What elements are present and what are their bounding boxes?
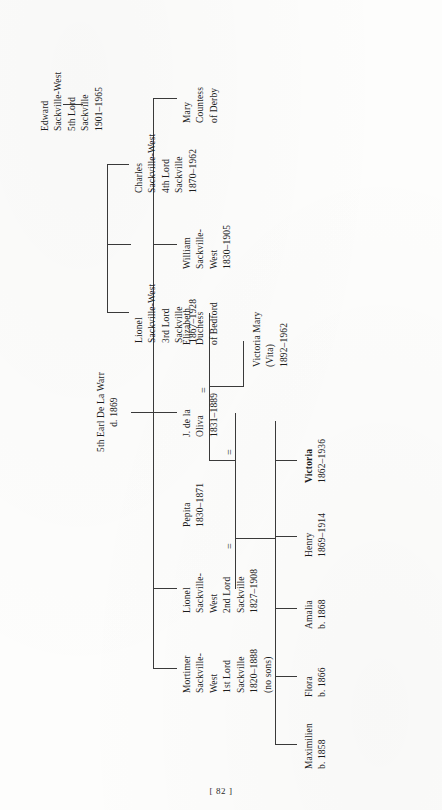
connector-drop-mortimer <box>153 668 177 669</box>
connector-drop-charles4 <box>107 164 129 165</box>
edward5-line-4: Sackville <box>79 72 92 131</box>
vita-line-2: (Vita) <box>264 312 277 367</box>
flora-line-1: Flora <box>303 667 316 697</box>
connector-drop-victoria <box>275 460 297 461</box>
node-edward-5th-lord: Edward Sackville-West 5th Lord Sackville… <box>39 72 106 131</box>
lionel2-line-5: Sackville <box>235 569 248 613</box>
node-amalia: Amalia b. 1868 <box>303 599 330 629</box>
node-j-de-la-oliva: J. de la Oliva 1831–1889 <box>181 393 221 437</box>
node-charles-4th-lord: Charles Sackville-West 4th Lord Sackvill… <box>133 134 200 193</box>
mary-line-2: Countess <box>194 87 207 123</box>
lionel2-line-6: 1827–1908 <box>248 569 261 613</box>
mortimer-line-7: (no sons) <box>262 649 275 693</box>
vita-line-1: Victoria Mary <box>251 312 264 367</box>
node-flora: Flora b. 1866 <box>303 667 330 697</box>
page-folio-number: [ 82 ] <box>0 786 442 796</box>
connector-drop-william <box>153 244 177 245</box>
maximilien-line-1: Maximilien <box>303 723 316 769</box>
marriage-symbol-lionel-pepita: = <box>224 543 235 549</box>
amalia-line-1: Amalia <box>303 599 316 629</box>
connector-drop-lionel3 <box>107 312 129 313</box>
mary-line-3: of Derby <box>208 87 221 123</box>
mortimer-line-5: Sackville <box>235 649 248 693</box>
charles4-line-4: Sackville <box>173 134 186 193</box>
node-lionel-2nd-lord: Lionel Sackville- West 2nd Lord Sackvill… <box>181 569 262 613</box>
amalia-line-2: b. 1868 <box>316 599 329 629</box>
connector-drop-flora <box>275 676 297 677</box>
connector-drop-mary <box>153 98 177 99</box>
flora-line-2: b. 1866 <box>316 667 329 697</box>
lionel3-line-2: Sackville-West <box>146 284 159 343</box>
connector-drop-henry <box>275 536 297 537</box>
node-mortimer: Mortimer Sackville- West 1st Lord Sackvi… <box>181 649 275 693</box>
william-line-3: West <box>208 225 221 269</box>
pepita-line-2: 1830–1871 <box>194 483 207 527</box>
node-lionel-3rd-lord: Lionel Sackville-West 3rd Lord Sackville… <box>133 284 200 343</box>
mortimer-line-6: 1820–1888 <box>248 649 261 693</box>
william-line-1: William <box>181 225 194 269</box>
family-tree-diagram: = = = 5th Earl De La Warr d. 1869 Mortim… <box>21 25 421 785</box>
mortimer-line-2: Sackville- <box>194 649 207 693</box>
edward5-line-5: 1901–1965 <box>93 72 106 131</box>
lionel2-line-2: Sackville- <box>194 569 207 613</box>
root-dates: d. 1869 <box>108 357 121 467</box>
connector-root-stem <box>131 412 153 413</box>
henry-line-2: 1869–1914 <box>316 513 329 557</box>
charles4-line-3: 4th Lord <box>160 134 173 193</box>
william-line-4: 1830–1905 <box>221 225 234 269</box>
edward5-line-1: Edward <box>39 72 52 131</box>
oliva-line-3: 1831–1889 <box>208 393 221 437</box>
vita-line-3: 1892–1962 <box>278 312 291 367</box>
connector-drop-lionel2 <box>153 588 177 589</box>
lionel2-line-1: Lionel <box>181 569 194 613</box>
lionel3-line-3: 3rd Lord <box>160 284 173 343</box>
node-victoria: Victoria 1862–1936 <box>303 439 330 483</box>
william-line-2: Sackville- <box>194 225 207 269</box>
lionel3-line-5: 1867–1928 <box>187 284 200 343</box>
node-william: William Sackville- West 1830–1905 <box>181 225 235 269</box>
elizabeth-line-3: of Bedford <box>208 302 221 345</box>
lionel2-line-4: 2nd Lord <box>221 569 234 613</box>
node-root: 5th Earl De La Warr d. 1869 <box>95 357 122 467</box>
connector-children-bar-william <box>107 165 108 313</box>
mortimer-line-1: Mortimer <box>181 649 194 693</box>
henry-line-1: Henry <box>303 513 316 557</box>
node-maximilien: Maximilien b. 1858 <box>303 723 330 769</box>
connector-william-stem <box>107 244 131 245</box>
lionel2-line-3: West <box>208 569 221 613</box>
connector-marriage-pepita-oliva <box>235 413 236 489</box>
edward5-line-3: 5th Lord <box>66 72 79 131</box>
mortimer-line-3: West <box>208 649 221 693</box>
node-vita: Victoria Mary (Vita) 1892–1962 <box>251 312 291 367</box>
victoria-line-1: Victoria <box>303 439 316 483</box>
mortimer-line-4: 1st Lord <box>221 649 234 693</box>
pepita-line-1: Pepita <box>181 483 194 527</box>
mary-line-1: Mary <box>181 87 194 123</box>
node-pepita: Pepita 1830–1871 <box>181 483 208 527</box>
oliva-line-2: Oliva <box>194 393 207 437</box>
root-name: 5th Earl De La Warr <box>95 357 108 467</box>
lionel3-line-4: Sackville <box>173 284 186 343</box>
marriage-symbol-pepita-oliva: = <box>224 449 235 455</box>
node-mary-countess-of-derby: Mary Countess of Derby <box>181 87 221 123</box>
connector-union-stem-lionel-pepita <box>235 538 275 539</box>
oliva-line-1: J. de la <box>181 393 194 437</box>
lionel3-line-1: Lionel <box>133 284 146 343</box>
connector-union-stem-vita <box>209 386 243 387</box>
node-henry: Henry 1869–1914 <box>303 513 330 557</box>
connector-victoria-up <box>209 460 235 461</box>
book-page: = = = 5th Earl De La Warr d. 1869 Mortim… <box>0 0 442 810</box>
maximilien-line-2: b. 1858 <box>316 723 329 769</box>
charles4-line-5: 1870–1962 <box>187 134 200 193</box>
connector-drop-elizabeth <box>153 412 177 413</box>
connector-children-bar-pepita <box>275 421 276 745</box>
charles4-line-1: Charles <box>133 134 146 193</box>
victoria-line-2: 1862–1936 <box>316 439 329 483</box>
connector-drop-maximilien <box>275 744 297 745</box>
connector-drop-amalia <box>275 608 297 609</box>
connector-vita-bar <box>243 341 244 387</box>
edward5-line-2: Sackville-West <box>52 72 65 131</box>
charles4-line-2: Sackville-West <box>146 134 159 193</box>
